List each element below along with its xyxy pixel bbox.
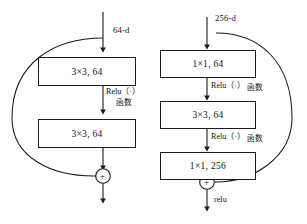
left-input-dim-label: 64-d [113,26,130,35]
right-relu-label-2: Relu（·） [211,133,245,142]
diagram-vector-layer [0,0,307,224]
right-relu-cjk-label-2: 函数 [247,135,263,143]
left-relu-cjk-label-1: 函数 [116,99,132,107]
left-conv-box-1: 3×3, 64 [38,57,136,86]
left-sum-plus-glyph: + [100,172,105,181]
right-input-dim-label: 256-d [215,14,236,23]
right-conv-box-3: 1×1, 256 [160,152,256,180]
left-relu-label-1: Relu（·） [106,88,140,97]
right-conv-box-1: 1×1, 64 [160,50,256,78]
right-sum-plus-glyph: + [204,178,209,187]
right-relu-cjk-label-1: 函数 [247,84,263,92]
right-relu-label-1: Relu（·） [211,82,245,91]
right-output-relu-label: relu [214,196,227,205]
left-conv-box-2: 3×3, 64 [38,119,136,148]
right-conv-box-2: 3×3, 64 [160,101,256,129]
residual-block-diagram: 64-d 3×3, 64 Relu（·） 函数 3×3, 64 + 256-d … [0,0,307,224]
